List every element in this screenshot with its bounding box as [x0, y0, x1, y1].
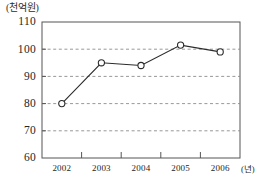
x-tick-label-2002: 2002: [42, 163, 82, 173]
data-point-2003: [98, 60, 104, 66]
chart-plot-area: [0, 0, 272, 182]
x-axis-unit-label: (년): [241, 164, 255, 174]
y-tick-label-80: 80: [6, 98, 36, 110]
x-tick-label-2004: 2004: [121, 163, 161, 173]
x-tick-label-2003: 2003: [81, 163, 121, 173]
x-tick-label-2005: 2005: [161, 163, 201, 173]
y-tick-label-60: 60: [6, 152, 36, 164]
plot-frame: [42, 22, 240, 158]
y-tick-label-100: 100: [6, 44, 36, 56]
data-point-2006: [217, 49, 223, 55]
x-tick-label-2006: 2006: [200, 163, 240, 173]
data-point-2005: [178, 42, 184, 48]
y-tick-label-90: 90: [6, 71, 36, 83]
data-point-2004: [138, 62, 144, 68]
y-tick-label-70: 70: [6, 125, 36, 137]
y-tick-label-110: 110: [6, 16, 36, 28]
line-chart: (천억원): [0, 0, 272, 182]
data-point-2002: [59, 101, 65, 107]
